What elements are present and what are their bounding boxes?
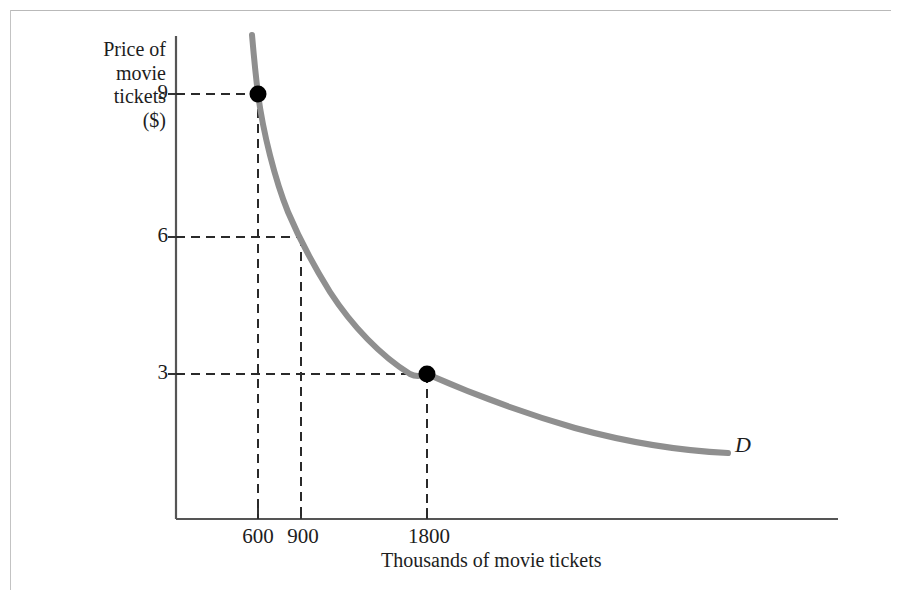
y-tick-label-3: 3 (134, 360, 168, 385)
y-axis-title-line-1: Price of (58, 38, 166, 62)
y-axis-title-line-4: ($) (58, 109, 166, 133)
x-tick-label-600: 600 (242, 524, 274, 549)
demand-curve-label: D (735, 432, 751, 458)
data-point-marker-600-9 (250, 86, 267, 103)
x-tick-label-900: 900 (287, 524, 319, 549)
figure-container: Price of movie tickets ($) 9 6 3 600 900… (0, 0, 901, 606)
x-tick-label-1800: 1800 (408, 524, 450, 549)
y-tick-label-9: 9 (134, 80, 168, 105)
demand-curve-path (252, 35, 728, 453)
y-tick-label-6: 6 (134, 223, 168, 248)
x-axis-title: Thousands of movie tickets (381, 549, 602, 573)
data-point-marker-1800-3 (419, 366, 436, 383)
